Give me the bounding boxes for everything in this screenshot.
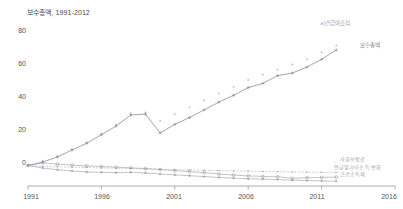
series-group [27, 45, 338, 183]
chart-container: 보수총액, 1991-2012 80 60 40 20 0 1991 1996 … [0, 0, 403, 209]
series-보수총액 [27, 48, 338, 167]
series-사회보험료 [27, 165, 338, 172]
series-label-low-2: 연금및기타소득 변화 [334, 163, 381, 170]
series-label-low-3: 근로소득세 [340, 170, 366, 177]
series-시간급여조적 [27, 45, 337, 166]
axis-lines [28, 186, 395, 190]
series-label-low-1: 사회보험료 [340, 155, 366, 162]
plot-area [0, 0, 403, 209]
series-label-line-main: 보수총액 [360, 41, 380, 49]
series-label-scatter-top: 시간급여조적 [320, 19, 351, 27]
series-근로소득세 [27, 164, 338, 182]
